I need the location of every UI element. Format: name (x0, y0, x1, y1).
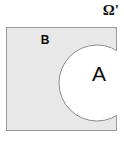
venn-diagram-canvas: B A (0, 0, 124, 141)
set-b-label: B (41, 33, 50, 47)
set-a-label: A (92, 62, 106, 85)
venn-diagram: Ω' B A (0, 0, 124, 141)
